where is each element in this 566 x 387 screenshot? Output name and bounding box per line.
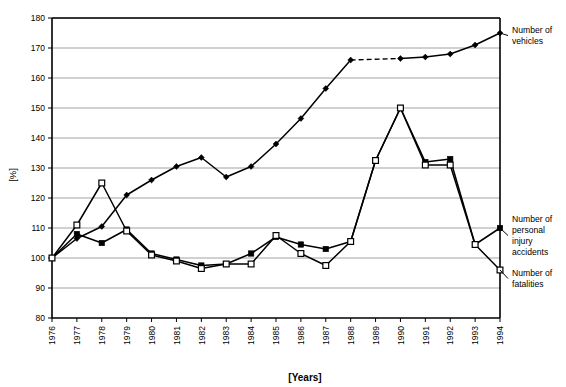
ann-accidents-leader	[500, 228, 508, 236]
series-annotations: Number ofvehiclesNumber ofpersonalinjury…	[500, 25, 553, 289]
x-tick-label: 1991	[421, 326, 431, 345]
marker-square-open	[447, 162, 453, 168]
ann-fatalities-label: Number of	[512, 268, 553, 278]
marker-square-open	[49, 255, 55, 261]
y-tick-label: 150	[31, 103, 45, 113]
x-axis-title: [Years]	[288, 372, 321, 383]
x-tick-label: 1980	[147, 326, 157, 345]
x-tick-label: 1989	[371, 326, 381, 345]
marker-square-open	[273, 233, 279, 239]
marker-square-open	[248, 261, 254, 267]
x-tick-label: 1988	[346, 326, 356, 345]
y-tick-label: 80	[36, 313, 46, 323]
marker-square-open	[348, 239, 354, 245]
marker-square-open	[298, 251, 304, 257]
ann-vehicles-label: vehicles	[512, 36, 543, 46]
y-axis-ticks: 8090100110120130140150160170180	[31, 13, 52, 323]
x-tick-label: 1992	[445, 326, 455, 345]
y-tick-label: 140	[31, 133, 45, 143]
x-tick-label: 1979	[122, 326, 132, 345]
marker-square-filled	[323, 246, 328, 251]
marker-diamond	[174, 164, 180, 170]
x-tick-label: 1981	[172, 326, 182, 345]
y-axis-title: [%]	[7, 168, 18, 182]
y-tick-label: 90	[36, 283, 46, 293]
ann-accidents-label: injury	[512, 236, 533, 246]
x-tick-label: 1984	[246, 326, 256, 345]
x-tick-label: 1976	[47, 326, 57, 345]
x-axis-ticks: 1976197719781979198019811982198319841985…	[47, 318, 505, 345]
marker-square-open	[124, 228, 130, 234]
marker-square-open	[422, 162, 428, 168]
ann-fatalities-leader	[500, 270, 508, 279]
data-markers-group	[49, 30, 503, 273]
x-tick-label: 1987	[321, 326, 331, 345]
marker-square-open	[99, 180, 105, 186]
series-line-2	[52, 108, 500, 270]
series-line-1	[52, 108, 500, 266]
marker-square-filled	[448, 156, 453, 161]
marker-diamond	[422, 54, 428, 60]
x-tick-label: 1978	[97, 326, 107, 345]
x-tick-label: 1983	[221, 326, 231, 345]
x-tick-label: 1977	[72, 326, 82, 345]
marker-square-filled	[99, 240, 104, 245]
marker-square-open	[398, 105, 404, 111]
marker-square-open	[323, 263, 329, 269]
x-tick-label: 1993	[470, 326, 480, 345]
y-tick-label: 170	[31, 43, 45, 53]
marker-square-filled	[298, 242, 303, 247]
y-tick-label: 110	[31, 223, 45, 233]
ann-accidents-label: personal	[512, 225, 545, 235]
marker-square-open	[373, 158, 379, 164]
marker-square-open	[198, 266, 204, 272]
marker-diamond	[398, 56, 404, 62]
marker-square-filled	[248, 251, 253, 256]
ann-accidents-label: accidents	[512, 247, 548, 257]
line-chart-svg: 8090100110120130140150160170180 19761977…	[0, 0, 566, 387]
x-tick-label: 1985	[271, 326, 281, 345]
marker-square-open	[174, 258, 180, 264]
marker-square-open	[472, 242, 478, 248]
marker-square-filled	[74, 231, 79, 236]
ann-fatalities-label: fatalities	[512, 279, 544, 289]
y-tick-label: 180	[31, 13, 45, 23]
x-tick-label: 1994	[495, 326, 505, 345]
y-tick-label: 130	[31, 163, 45, 173]
x-tick-label: 1986	[296, 326, 306, 345]
marker-diamond	[447, 51, 453, 57]
y-tick-label: 160	[31, 73, 45, 83]
marker-diamond	[472, 42, 478, 48]
series-line-dashed-0	[351, 59, 401, 61]
gridlines	[52, 18, 500, 288]
marker-square-open	[74, 222, 80, 228]
chart-figure: 8090100110120130140150160170180 19761977…	[0, 0, 566, 387]
marker-square-open	[149, 252, 155, 258]
ann-vehicles-label: Number of	[512, 25, 553, 35]
y-tick-label: 100	[31, 253, 45, 263]
y-tick-label: 120	[31, 193, 45, 203]
x-tick-label: 1990	[396, 326, 406, 345]
marker-square-open	[223, 261, 229, 267]
x-tick-label: 1982	[197, 326, 207, 345]
ann-accidents-label: Number of	[512, 214, 553, 224]
